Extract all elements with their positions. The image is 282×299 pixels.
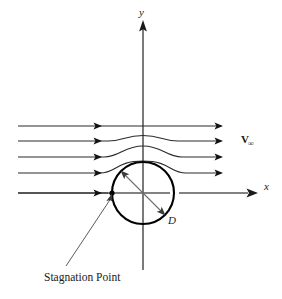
flow-diagram-canvas: y x (0, 0, 282, 299)
y-axis-label: y (138, 6, 144, 18)
streamline-2 (18, 136, 223, 145)
streamline-4-path (18, 161, 218, 173)
x-axis-label: x (263, 180, 269, 192)
stagnation-point-marker (66, 190, 115, 266)
streamline-3 (18, 146, 223, 160)
streamline-1 (18, 123, 223, 130)
stagnation-leader-line (66, 199, 111, 266)
streamline-3-path (18, 146, 218, 157)
flow-diagram-figure: y x (0, 0, 282, 299)
streamline-4 (18, 161, 223, 176)
diameter-label: D (167, 214, 176, 226)
streamline-2-path (18, 136, 218, 142)
freestream-velocity-label: V ∞ (241, 133, 254, 148)
stagnation-streamline (18, 190, 108, 197)
x-axis-arrowhead (247, 189, 259, 198)
diameter-indicator: D (121, 171, 177, 227)
stagnation-point-caption: Stagnation Point (44, 271, 121, 284)
y-axis: y (138, 6, 147, 270)
velocity-infinity-subscript: ∞ (248, 139, 254, 148)
